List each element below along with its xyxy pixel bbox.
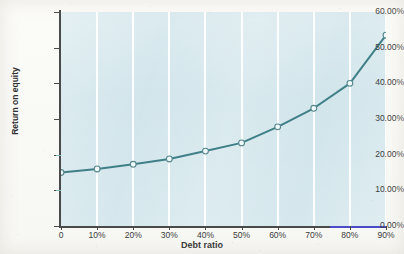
x-axis-tick-label: 70% xyxy=(297,230,331,240)
x-axis-tick-label: 90% xyxy=(369,230,403,240)
series-line-return-on-equity xyxy=(61,12,386,226)
speckle xyxy=(18,234,19,235)
y-axis-tick-label: 10.00% xyxy=(352,185,404,194)
data-point-marker xyxy=(239,140,245,146)
y-axis-minor-tick xyxy=(56,190,61,191)
speckle xyxy=(44,150,45,151)
y-axis-tick xyxy=(54,83,61,84)
speckle xyxy=(232,242,233,243)
data-point-marker xyxy=(275,124,281,130)
y-axis-tick xyxy=(54,226,61,227)
plot-area xyxy=(61,12,386,226)
speckle xyxy=(372,200,373,201)
speckle xyxy=(150,6,151,7)
speckle xyxy=(260,250,261,251)
y-axis-tick-label: 50.00% xyxy=(352,43,404,52)
y-axis-tick xyxy=(54,119,61,120)
x-axis-tick-label: 0 xyxy=(44,230,78,240)
y-axis-tick-label: 60.00% xyxy=(352,7,404,16)
y-axis-tick-label: 30.00% xyxy=(352,114,404,123)
y-axis-title: Return on equity xyxy=(10,57,20,145)
speckle xyxy=(70,4,71,5)
speckle xyxy=(96,246,97,247)
data-point-marker xyxy=(203,148,209,154)
series-polyline xyxy=(61,35,386,172)
chart-figure: 60.00%50.00%40.00%30.00%20.00%10.00%0.00… xyxy=(0,0,404,254)
data-point-marker xyxy=(311,105,317,111)
y-axis-tick xyxy=(54,12,61,13)
y-axis-tick xyxy=(54,48,61,49)
x-axis-tick-label: 40% xyxy=(188,230,222,240)
data-point-marker xyxy=(94,166,100,172)
data-point-marker xyxy=(61,170,64,176)
data-point-marker xyxy=(383,32,386,38)
y-axis-tick-label: 20.00% xyxy=(352,150,404,159)
x-axis-tick-label: 20% xyxy=(116,230,150,240)
x-axis-tick-label: 30% xyxy=(152,230,186,240)
speckle xyxy=(340,8,341,9)
y-axis-minor-tick xyxy=(56,155,61,156)
x-axis-tick-label: 80% xyxy=(333,230,367,240)
data-point-marker xyxy=(130,161,136,167)
x-axis-title: Debt ratio xyxy=(0,240,404,250)
data-point-marker xyxy=(166,156,172,162)
speckle xyxy=(8,80,9,81)
y-axis-tick-label: 40.00% xyxy=(352,78,404,87)
x-axis-tick-label: 50% xyxy=(225,230,259,240)
y-axis-tick-label: 0.00% xyxy=(352,221,404,230)
speckle xyxy=(188,250,189,251)
x-axis-tick-label: 60% xyxy=(261,230,295,240)
speckle xyxy=(12,196,13,197)
x-axis-tick-label: 10% xyxy=(80,230,114,240)
